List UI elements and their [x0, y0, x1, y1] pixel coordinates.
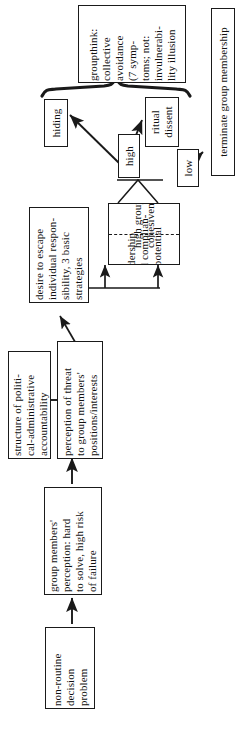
- non-routine-decision-problem-label: non-routine decision problem: [51, 630, 90, 706]
- hiding-box[interactable]: hiding: [44, 99, 68, 147]
- hiding-label: hiding: [50, 101, 63, 145]
- arrow-high-to-hiding: [70, 115, 119, 163]
- desire-to-escape-label: desire to escape individual respon- sibi…: [33, 210, 85, 300]
- groupthink-box-label: groupthink: collective avoidance (7 symp…: [87, 7, 178, 81]
- non-routine-decision-problem-box[interactable]: non-routine decision problem: [45, 627, 95, 709]
- terminate-group-membership-box[interactable]: terminate group membership: [211, 8, 235, 176]
- structure-of-accountability-box[interactable]: structure of politi- cal-administrative …: [8, 351, 51, 459]
- ritual-dissent-label: ritual dissent: [149, 99, 175, 145]
- branch-v-from-cohesion: [118, 180, 158, 203]
- perception-of-threat-box[interactable]: perception of threat to group members' p…: [57, 341, 103, 459]
- cohesion-compound-box: high group cohesiveness leadership and c…: [108, 203, 180, 265]
- desire-to-escape-responsibility-box[interactable]: desire to escape individual respon- sibi…: [29, 207, 89, 303]
- group-members-perception-label: group members' perception: hard to solve…: [47, 490, 99, 592]
- ritual-dissent-box[interactable]: ritual dissent: [145, 97, 179, 147]
- leadership-compliance-potential-label[interactable]: leadership and complian- ce potential: [125, 221, 164, 265]
- terminate-group-membership-label: terminate group membership: [217, 12, 230, 172]
- structure-of-accountability-label: structure of politi- cal-administrative …: [10, 354, 49, 456]
- group-members-perception-box[interactable]: group members' perception: hard to solve…: [44, 487, 102, 595]
- low-box[interactable]: low: [177, 149, 199, 187]
- perception-of-threat-label: perception of threat to group members' p…: [61, 344, 100, 456]
- diagram-canvas: groupthink: collective avoidance (7 symp…: [0, 0, 251, 731]
- groupthink-box[interactable]: groupthink: collective avoidance (7 symp…: [78, 5, 186, 83]
- high-label: high: [123, 136, 136, 176]
- low-label: low: [182, 151, 195, 185]
- high-box[interactable]: high: [118, 134, 140, 178]
